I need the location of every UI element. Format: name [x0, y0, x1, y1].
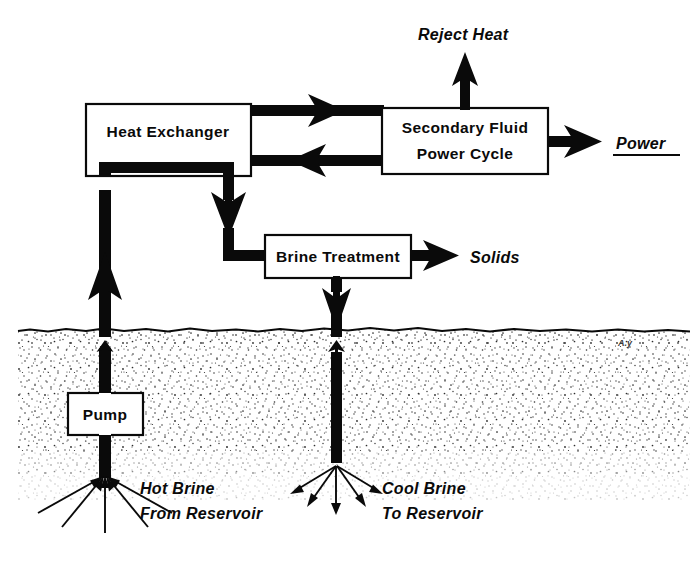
schematic-svg: Heat Exchanger Secondary Fluid Power Cyc…	[0, 0, 698, 567]
pump-box[interactable]: Pump	[68, 393, 143, 435]
hot-brine-label-line1: Hot Brine	[140, 480, 215, 497]
heat-exchanger-box[interactable]: Heat Exchanger	[86, 104, 251, 200]
cool-brine-label-line2: To Reservoir	[382, 505, 483, 522]
reject-heat-label: Reject Heat	[418, 26, 509, 43]
power-output-arrow	[548, 125, 602, 158]
condensate-return-pipe	[250, 144, 384, 177]
brine-treatment-box[interactable]: Brine Treatment	[265, 235, 411, 278]
solids-output-arrow	[411, 240, 459, 271]
brine-treatment-label: Brine Treatment	[276, 248, 400, 265]
power-label: Power	[616, 135, 666, 152]
heat-exchanger-label: Heat Exchanger	[107, 123, 230, 140]
secondary-fluid-label-line2: Power Cycle	[417, 145, 514, 162]
hot-brine-label-line2: From Reservoir	[140, 505, 263, 522]
diagram-canvas: Heat Exchanger Secondary Fluid Power Cyc…	[0, 0, 698, 567]
cool-brine-label-line1: Cool Brine	[382, 480, 466, 497]
artist-signature: A.y	[617, 338, 633, 348]
reject-heat-arrow	[452, 52, 478, 110]
vapor-supply-pipe	[250, 94, 384, 127]
secondary-fluid-label-line1: Secondary Fluid	[402, 119, 529, 136]
pump-label: Pump	[83, 406, 128, 423]
solids-label: Solids	[470, 249, 520, 266]
secondary-fluid-power-cycle-box[interactable]: Secondary Fluid Power Cycle	[382, 108, 548, 174]
